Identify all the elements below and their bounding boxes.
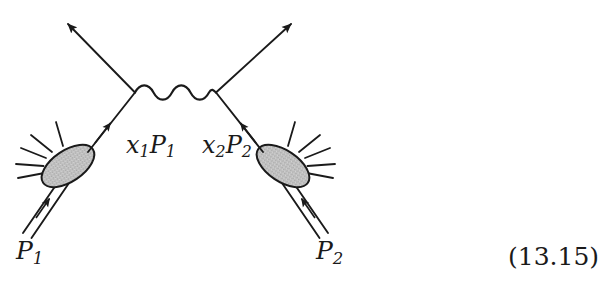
spectator-line-left-5 [56, 122, 63, 146]
label-p2-sub: 2 [333, 249, 344, 268]
label-x1p1-x-sub: 1 [140, 142, 150, 161]
incoming-hadron-line-left [23, 179, 69, 239]
spectator-line-left-4 [18, 173, 45, 178]
spectator-line-left-1 [31, 135, 52, 152]
label-x2p2-x: x [202, 131, 216, 159]
outgoing-lepton-left [68, 24, 135, 93]
hadron-left-group [16, 93, 135, 239]
parton-left-direction-arrow [95, 123, 111, 143]
label-hadron-right: P2 [316, 238, 343, 267]
label-hadron-left: P1 [16, 238, 43, 267]
label-x2p2-p: P [226, 131, 242, 159]
spectator-line-right-2 [305, 148, 330, 158]
spectator-line-right-1 [299, 135, 320, 152]
label-x2p2-x-sub: 2 [216, 142, 226, 161]
feynman-diagram-canvas [0, 0, 607, 282]
spectator-line-left-3 [16, 164, 44, 166]
outgoing-lepton-right [216, 24, 291, 93]
hadron-line-right-lower [282, 183, 320, 238]
wavy-photon-line [135, 85, 216, 99]
spectator-line-right-5 [288, 122, 295, 146]
spectator-line-right-3 [308, 164, 336, 166]
label-p1-base: P [16, 236, 33, 265]
incoming-hadron-line-right [282, 179, 328, 239]
label-x1p1-x: x [126, 131, 140, 159]
spectator-line-left-2 [21, 148, 46, 158]
label-x1p1-p-sub: 1 [166, 142, 176, 161]
label-p2-base: P [316, 236, 333, 265]
hadron-right-group [216, 93, 335, 239]
hadron-line-left-lower [32, 183, 70, 238]
label-x1p1-p: P [150, 131, 166, 159]
label-parton-right: x2P2 [202, 133, 252, 160]
label-x2p2-p-sub: 2 [242, 142, 252, 161]
label-p1-sub: 1 [33, 249, 44, 268]
spectator-line-right-4 [307, 173, 334, 178]
feynman-diagram-figure: x1P1 x2P2 P1 P2 (13.15) [0, 0, 607, 282]
label-parton-left: x1P1 [126, 133, 176, 160]
equation-number: (13.15) [508, 242, 599, 271]
